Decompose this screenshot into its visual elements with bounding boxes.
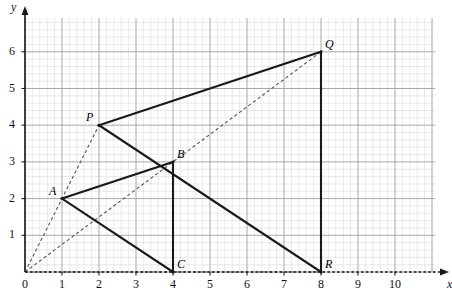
x-tick-label-1: 1 xyxy=(53,277,71,292)
point-label-R: R xyxy=(325,257,332,272)
x-tick-label-5: 5 xyxy=(201,277,219,292)
y-tick-label-4: 4 xyxy=(5,117,19,132)
vertex-dot-R xyxy=(320,271,323,274)
y-tick-label-6: 6 xyxy=(5,44,19,59)
y-tick-label-5: 5 xyxy=(5,81,19,96)
point-label-A: A xyxy=(49,184,56,199)
vertex-dot-P xyxy=(98,124,101,127)
point-label-C: C xyxy=(177,257,185,272)
x-axis-label: x xyxy=(447,277,452,292)
x-tick-label-10: 10 xyxy=(386,277,404,292)
x-tick-label-3: 3 xyxy=(127,277,145,292)
x-tick-label-0: 0 xyxy=(16,277,34,292)
point-label-B: B xyxy=(177,147,184,162)
y-tick-label-2: 2 xyxy=(5,191,19,206)
x-axis-arrow xyxy=(440,269,449,276)
grid-minor xyxy=(25,18,435,272)
y-tick-label-3: 3 xyxy=(5,154,19,169)
vertex-dot-Q xyxy=(320,50,323,53)
vertex-dot-B xyxy=(172,160,175,163)
vertex-dot-C xyxy=(172,271,175,274)
x-tick-label-8: 8 xyxy=(312,277,330,292)
y-axis-label: y xyxy=(11,0,16,15)
y-tick-label-1: 1 xyxy=(5,227,19,242)
x-tick-label-4: 4 xyxy=(164,277,182,292)
triangle-ABC xyxy=(62,162,173,272)
grid-major xyxy=(25,18,435,272)
point-label-P: P xyxy=(86,110,93,125)
x-tick-label-9: 9 xyxy=(349,277,367,292)
x-tick-label-7: 7 xyxy=(275,277,293,292)
vertex-dot-A xyxy=(61,197,64,200)
x-tick-label-2: 2 xyxy=(90,277,108,292)
point-label-Q: Q xyxy=(325,37,334,52)
x-tick-label-6: 6 xyxy=(238,277,256,292)
y-axis-arrow xyxy=(22,6,29,15)
